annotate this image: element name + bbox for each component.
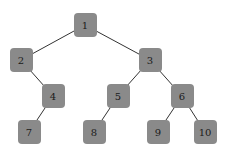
- node-7: 7: [18, 120, 41, 144]
- node-label: 4: [50, 91, 56, 102]
- node-label: 7: [26, 127, 32, 138]
- node-4: 4: [42, 84, 65, 108]
- node-8: 8: [83, 120, 106, 144]
- node-label: 9: [155, 127, 161, 138]
- node-label: 2: [18, 55, 24, 66]
- node-label: 5: [115, 91, 121, 102]
- node-1: 1: [74, 13, 97, 37]
- node-3: 3: [139, 48, 162, 72]
- node-10: 10: [194, 120, 217, 144]
- node-9: 9: [147, 120, 170, 144]
- node-label: 1: [82, 20, 88, 31]
- node-2: 2: [10, 48, 33, 72]
- node-label: 3: [147, 55, 153, 66]
- node-label: 8: [91, 127, 97, 138]
- node-label: 10: [199, 127, 212, 138]
- node-label: 6: [179, 91, 185, 102]
- node-6: 6: [171, 84, 194, 108]
- tree-diagram: 1 2 3 4 5 6 7 8 9 10: [0, 0, 226, 152]
- node-5: 5: [107, 84, 130, 108]
